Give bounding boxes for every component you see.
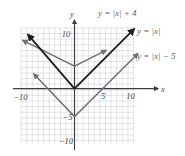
equation-labels: y = |x| + 4 y = |x| y = |x| − 5: [97, 8, 176, 61]
absolute-value-graph-figure: −10 5 10 10 −5 −10 x y y = |x| + 4 y = |…: [0, 0, 185, 156]
equation-label-abs-plus-4: y = |x| + 4: [97, 8, 137, 18]
y-tick-label-10: 10: [62, 29, 71, 39]
x-tick-label-5: 5: [101, 91, 105, 101]
x-tick-label-10: 10: [126, 91, 135, 101]
curve-abs-x: [28, 29, 134, 88]
x-axis-label: x: [160, 84, 165, 94]
equation-label-abs-minus-5: y = |x| − 5: [136, 51, 176, 61]
graph-svg: −10 5 10 10 −5 −10 x y y = |x| + 4 y = |…: [0, 0, 185, 156]
y-tick-label-neg5: −5: [63, 112, 73, 122]
equation-label-abs-x: y = |x|: [136, 26, 161, 36]
y-axis-label: y: [69, 9, 74, 19]
x-tick-label-neg10: −10: [13, 92, 28, 102]
y-tick-label-neg10: −10: [59, 136, 74, 146]
axes: [13, 20, 158, 150]
